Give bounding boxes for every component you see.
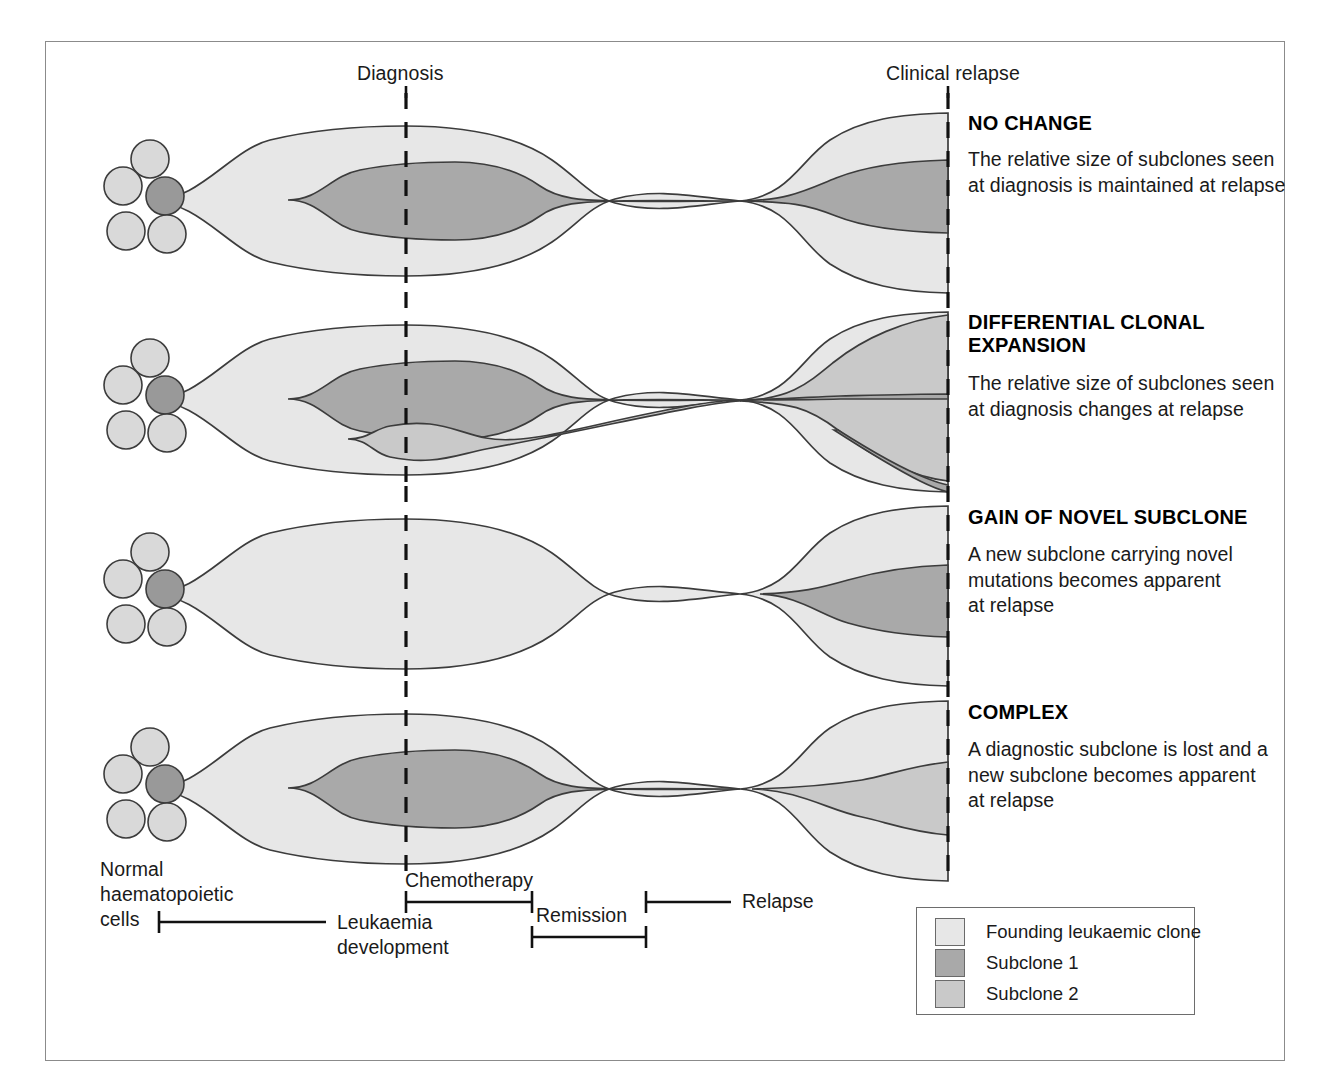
legend-label-subclone-1: Subclone 1 <box>986 952 1079 974</box>
panel-desc-no-change: The relative size of subclones seen at d… <box>968 147 1313 198</box>
panel-desc-gain-of-novel-subclone: A new subclone carrying novel mutations … <box>968 542 1313 619</box>
clinical-relapse-label: Clinical relapse <box>886 62 1020 85</box>
desc-line: The relative size of subclones seen <box>968 371 1313 397</box>
desc-line: new subclone becomes apparent <box>968 763 1313 789</box>
label-line: Leukaemia <box>337 910 449 935</box>
desc-line: mutations becomes apparent <box>968 568 1313 594</box>
legend-swatch-subclone-2 <box>935 980 965 1008</box>
panel-desc-complex: A diagnostic subclone is lost and a new … <box>968 737 1313 814</box>
label-line: development <box>337 935 449 960</box>
legend-swatch-subclone-1 <box>935 949 965 977</box>
bracket-remission <box>532 926 646 948</box>
cell-cluster-3 <box>104 533 186 646</box>
panel-title-gain-of-novel-subclone: GAIN OF NOVEL SUBCLONE <box>968 506 1248 529</box>
leukaemia-development-label: Leukaemia development <box>337 910 449 960</box>
cell-cluster-4 <box>104 728 186 841</box>
label-line: Normal <box>100 857 234 882</box>
subclone-1-shape <box>288 361 740 439</box>
chemotherapy-label: Chemotherapy <box>405 869 533 892</box>
panel-differential-clonal-expansion-plot <box>150 292 948 492</box>
panel-title-no-change: NO CHANGE <box>968 112 1092 135</box>
legend-label-founding-clone: Founding leukaemic clone <box>986 921 1201 943</box>
label-line: haematopoietic <box>100 882 234 907</box>
founding-clone-shape <box>150 519 740 669</box>
panel-desc-differential-clonal-expansion: The relative size of subclones seen at d… <box>968 371 1313 422</box>
legend-item-subclone-2: Subclone 2 <box>935 979 1079 1009</box>
desc-line: A new subclone carrying novel <box>968 542 1313 568</box>
desc-line: at relapse <box>968 788 1313 814</box>
cell-cluster-2 <box>104 339 186 452</box>
normal-haematopoietic-cells-label: Normal haematopoietic cells <box>100 857 234 932</box>
legend-item-subclone-1: Subclone 1 <box>935 948 1079 978</box>
subclone-1-shape <box>288 162 740 240</box>
panel-no-change-plot <box>150 93 948 293</box>
label-line: cells <box>100 907 234 932</box>
title-line: DIFFERENTIAL CLONAL <box>968 311 1205 334</box>
bracket-relapse <box>646 891 731 913</box>
panel-gain-of-novel-subclone-plot <box>150 486 948 686</box>
desc-line: The relative size of subclones seen <box>968 147 1313 173</box>
title-line: EXPANSION <box>968 334 1205 357</box>
desc-line: at diagnosis is maintained at relapse <box>968 173 1313 199</box>
desc-line: at diagnosis changes at relapse <box>968 397 1313 423</box>
legend-item-founding-clone: Founding leukaemic clone <box>935 917 1201 947</box>
panel-title-complex: COMPLEX <box>968 701 1068 724</box>
cell-cluster-1 <box>104 140 186 253</box>
desc-line: A diagnostic subclone is lost and a <box>968 737 1313 763</box>
subclone-1-shape <box>288 750 740 828</box>
panel-title-differential-clonal-expansion: DIFFERENTIAL CLONAL EXPANSION <box>968 311 1205 357</box>
panel-complex-plot <box>150 681 948 881</box>
legend-swatch-founding-clone <box>935 918 965 946</box>
legend-label-subclone-2: Subclone 2 <box>986 983 1079 1005</box>
legend: Founding leukaemic clone Subclone 1 Subc… <box>916 907 1195 1015</box>
remission-label: Remission <box>536 904 627 927</box>
figure-canvas: .fill-found{fill:#e7e7e7;} .fill-sub1{fi… <box>0 0 1332 1085</box>
diagnosis-label: Diagnosis <box>357 62 444 85</box>
desc-line: at relapse <box>968 593 1313 619</box>
relapse-label: Relapse <box>742 890 814 913</box>
